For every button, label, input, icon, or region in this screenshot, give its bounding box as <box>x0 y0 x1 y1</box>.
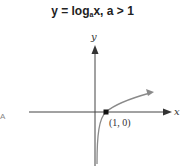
graph-canvas: y x (1, 0) <box>0 0 185 166</box>
y-axis-label: y <box>90 31 97 42</box>
log-curve <box>97 93 150 164</box>
curve-arrow-icon <box>146 89 154 96</box>
cropped-edge-glyph: A <box>0 112 5 121</box>
log-graph-figure: y = logax, a > 1 y x (1, 0) A <box>0 0 185 166</box>
x-axis-label: x <box>174 106 180 117</box>
y-axis-arrow-icon <box>92 45 99 54</box>
point-label: (1, 0) <box>109 117 131 129</box>
point-marker <box>104 110 109 115</box>
x-axis-arrow-icon <box>163 109 172 116</box>
